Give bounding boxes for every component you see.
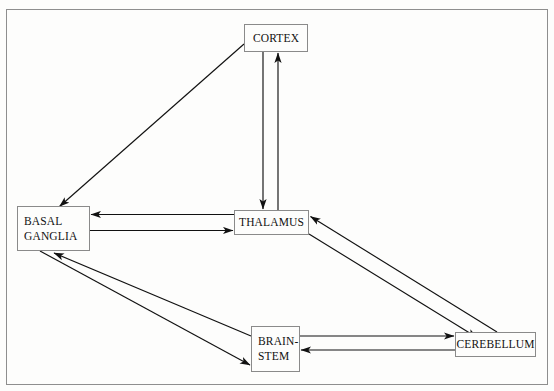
node-basal-ganglia-label: BASAL GANGLIA [24,214,77,243]
node-brain-stem-label: BRAIN- STEM [258,334,299,363]
node-brain-stem[interactable]: BRAIN- STEM [251,326,300,372]
diagram-page: CORTEX THALAMUS BASAL GANGLIA BRAIN- STE… [0,0,554,391]
node-cortex[interactable]: CORTEX [244,24,308,52]
node-thalamus-label: THALAMUS [239,215,304,230]
node-cerebellum[interactable]: CEREBELLUM [455,332,536,357]
node-cerebellum-label: CEREBELLUM [456,337,534,352]
node-basal-ganglia[interactable]: BASAL GANGLIA [17,206,90,251]
node-thalamus[interactable]: THALAMUS [234,210,309,235]
node-cortex-label: CORTEX [253,31,299,46]
